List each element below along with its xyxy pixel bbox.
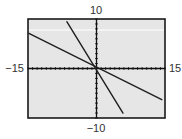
y-min-label: −10: [87, 122, 106, 134]
x-max-label: 15: [169, 62, 181, 74]
calculator-graph: 10 −10 −15 15: [0, 0, 182, 139]
y-max-label: 10: [90, 4, 102, 16]
x-min-label: −15: [5, 62, 24, 74]
